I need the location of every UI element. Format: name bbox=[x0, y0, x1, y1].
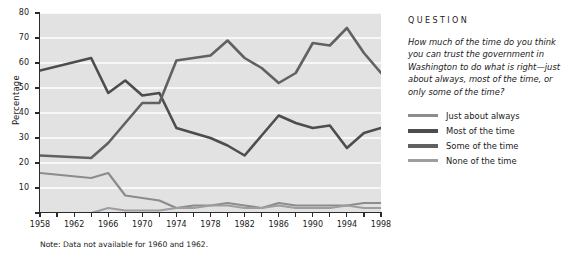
x-tick-label: 1958 bbox=[30, 220, 50, 229]
x-tick-mark bbox=[108, 213, 109, 217]
x-tick-mark bbox=[176, 213, 177, 217]
x-tick-mark bbox=[142, 213, 143, 217]
series-line-0 bbox=[40, 173, 381, 208]
series-canvas bbox=[40, 13, 381, 213]
legend-label: Most of the time bbox=[446, 126, 515, 136]
x-tick-label: 1982 bbox=[234, 220, 254, 229]
x-tick-mark bbox=[312, 213, 313, 217]
legend-swatch-icon bbox=[408, 144, 438, 148]
y-tick-label: 20 bbox=[19, 159, 29, 167]
y-axis-line bbox=[39, 12, 40, 213]
x-tick-label: 1978 bbox=[200, 220, 220, 229]
panel-title: QUESTION bbox=[408, 16, 469, 25]
x-tick-label: 1974 bbox=[166, 220, 186, 229]
y-tick-label: 40 bbox=[19, 109, 29, 117]
x-tick-mark bbox=[244, 213, 245, 217]
x-tick-mark bbox=[56, 213, 57, 217]
x-tick-mark bbox=[159, 213, 160, 217]
x-tick-mark bbox=[210, 213, 211, 217]
y-tick-label: 50 bbox=[19, 84, 29, 92]
chart-note: Note: Data not available for 1960 and 19… bbox=[40, 240, 208, 249]
chart-legend: Just about alwaysMost of the timeSome of… bbox=[408, 108, 568, 168]
x-tick-label: 1990 bbox=[303, 220, 323, 229]
y-tick-label: 70 bbox=[19, 34, 29, 42]
line-chart: Percentage 1020304050607080 195819621966… bbox=[0, 0, 400, 264]
question-text: How much of the time do you think you ca… bbox=[408, 36, 566, 98]
legend-item[interactable]: Some of the time bbox=[408, 138, 568, 153]
legend-item[interactable]: None of the time bbox=[408, 153, 568, 168]
legend-label: None of the time bbox=[446, 156, 517, 166]
x-tick-label: 1994 bbox=[337, 220, 357, 229]
x-tick-mark bbox=[261, 213, 262, 217]
x-tick-mark bbox=[295, 213, 296, 217]
x-tick-label: 1986 bbox=[269, 220, 289, 229]
x-tick-label: 1998 bbox=[371, 220, 391, 229]
x-tick-mark bbox=[227, 213, 228, 217]
legend-label: Some of the time bbox=[446, 141, 518, 151]
x-tick-mark bbox=[329, 213, 330, 217]
legend-swatch-icon bbox=[408, 159, 438, 162]
x-tick-mark bbox=[346, 213, 347, 217]
y-tick-label: 60 bbox=[19, 59, 29, 67]
legend-item[interactable]: Just about always bbox=[408, 108, 568, 123]
x-tick-mark bbox=[380, 213, 381, 217]
plot-area bbox=[40, 13, 381, 213]
x-tick-mark bbox=[363, 213, 364, 217]
x-tick-mark bbox=[74, 213, 75, 217]
chart-page: Percentage 1020304050607080 195819621966… bbox=[0, 0, 570, 264]
legend-swatch-icon bbox=[408, 129, 438, 133]
legend-item[interactable]: Most of the time bbox=[408, 123, 568, 138]
x-tick-label: 1966 bbox=[98, 220, 118, 229]
x-tick-label: 1962 bbox=[64, 220, 84, 229]
question-panel: QUESTION How much of the time do you thi… bbox=[408, 0, 570, 264]
x-tick-mark bbox=[193, 213, 194, 217]
series-line-1 bbox=[40, 58, 381, 156]
x-tick-mark bbox=[39, 213, 40, 217]
y-tick-label: 10 bbox=[19, 184, 29, 192]
y-tick-label: 80 bbox=[19, 9, 29, 17]
legend-swatch-icon bbox=[408, 114, 438, 117]
x-tick-mark bbox=[278, 213, 279, 217]
x-tick-label: 1970 bbox=[132, 220, 152, 229]
x-tick-mark bbox=[91, 213, 92, 217]
x-tick-mark bbox=[125, 213, 126, 217]
y-tick-label: 30 bbox=[19, 134, 29, 142]
legend-label: Just about always bbox=[446, 111, 520, 121]
